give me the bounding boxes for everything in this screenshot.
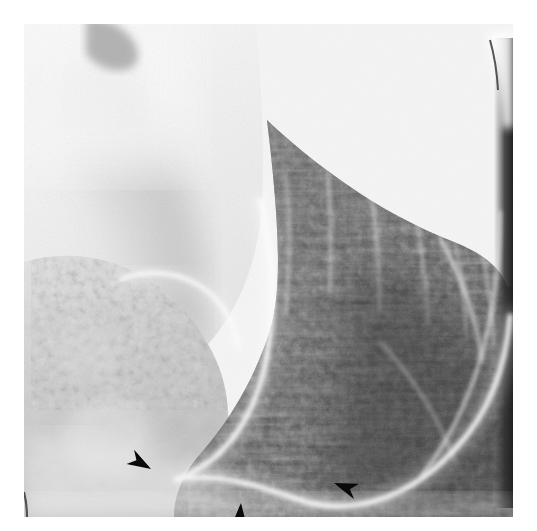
radiograph-canvas [24,24,513,517]
radiograph-figure [0,0,537,531]
film-grain [24,24,513,517]
radiograph-image [24,24,513,517]
page-margin-left [0,0,24,531]
page-margin-right [513,0,537,531]
page-margin-bottom [0,517,537,531]
page-margin-top [0,0,537,24]
